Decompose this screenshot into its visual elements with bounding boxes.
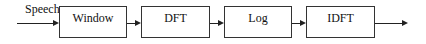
arrow-head-icon [402,20,408,26]
input-arrow-line [17,23,54,24]
output-arrow-line [375,23,403,24]
block-label: Window [73,11,114,25]
block-label: Log [248,11,267,25]
block-window: Window [59,6,127,38]
input-label: Speech [25,3,60,15]
block-log: Log [224,6,292,38]
block-idft: IDFT [306,6,375,38]
block-label: DFT [164,11,187,25]
block-label: IDFT [327,11,354,25]
block-dft: DFT [141,6,210,38]
